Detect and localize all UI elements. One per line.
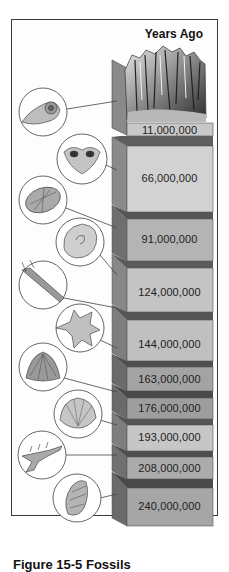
layer-label-240m: 240,000,000 bbox=[127, 500, 212, 512]
layer-label-163m: 163,000,000 bbox=[127, 373, 212, 385]
layer-124m bbox=[112, 254, 213, 312]
layer-label-124m: 124,000,000 bbox=[127, 286, 212, 298]
figure-caption: Figure 15-5 Fossils bbox=[13, 557, 131, 572]
layer-label-66m: 66,000,000 bbox=[127, 172, 212, 184]
layer-label-11m: 11,000,000 bbox=[127, 124, 212, 136]
rock-outcrop bbox=[112, 46, 213, 136]
layer-label-91m: 91,000,000 bbox=[127, 233, 212, 245]
layer-240m bbox=[112, 472, 213, 526]
layer-label-208m: 208,000,000 bbox=[127, 462, 212, 474]
layer-144m bbox=[112, 305, 213, 361]
layer-label-144m: 144,000,000 bbox=[127, 338, 212, 350]
layer-label-176m: 176,000,000 bbox=[127, 402, 212, 414]
layer-label-193m: 193,000,000 bbox=[127, 431, 212, 443]
